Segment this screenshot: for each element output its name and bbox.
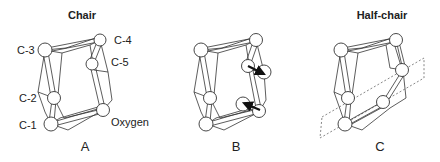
atom-c-c4	[390, 34, 403, 47]
atom-c-c3	[334, 43, 348, 57]
atom-c-c2	[342, 92, 355, 105]
conformation-diagram: Chair	[0, 0, 440, 162]
panel-c-letter: C	[375, 139, 384, 154]
label-c4: C-4	[114, 34, 132, 46]
label-c3: C-3	[17, 44, 35, 56]
atom-c2	[48, 92, 61, 105]
panel-b-letter: B	[232, 139, 241, 154]
atom-b-c1	[199, 117, 213, 131]
atom-oxygen	[97, 104, 110, 117]
atom-c4	[94, 34, 106, 46]
atom-c-c1	[338, 117, 352, 131]
atom-b-c4	[250, 34, 263, 47]
atom-c3	[38, 43, 52, 57]
panel-a-title: Chair	[68, 9, 97, 21]
atom-c-c5	[396, 64, 409, 77]
label-c5: C-5	[111, 56, 129, 68]
atom-b-c2	[204, 92, 217, 105]
label-oxygen: Oxygen	[111, 116, 149, 128]
atom-c-oxygen	[377, 96, 390, 109]
panel-a-letter: A	[81, 139, 90, 154]
panel-b: B	[194, 34, 271, 155]
label-c1: C-1	[19, 119, 37, 131]
atom-b-c3	[194, 43, 208, 57]
panel-c-half-chair: Half-chair	[320, 9, 424, 154]
atom-c5	[86, 58, 98, 70]
panel-c-title: Half-chair	[357, 9, 408, 21]
atom-c1	[44, 117, 58, 131]
label-c2: C-2	[19, 92, 37, 104]
panel-a-chair: Chair	[17, 9, 149, 154]
